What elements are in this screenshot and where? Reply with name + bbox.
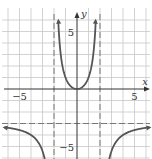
arrow-icon [56,19,61,24]
y-tick-label: 5 [68,27,74,38]
grid-lines [2,8,150,159]
x-tick-label: 5 [131,91,137,102]
y-axis-arrow-icon [75,12,80,18]
x-axis-label: x [142,76,148,87]
y-axis-label: y [80,8,87,19]
arrow-icon [93,19,98,24]
arrow-icon [146,125,152,131]
x-axis-arrow-icon [144,87,150,92]
function-graph: −555−5xy [0,0,152,159]
tick-labels: −555−5xy [12,8,148,153]
arrow-icon [2,125,8,131]
left-branch-curve [5,127,46,159]
y-tick-label: −5 [59,142,74,153]
asymptotes [2,14,150,159]
right-branch-curve [108,127,149,159]
x-tick-label: −5 [12,91,27,102]
axes [4,12,150,159]
